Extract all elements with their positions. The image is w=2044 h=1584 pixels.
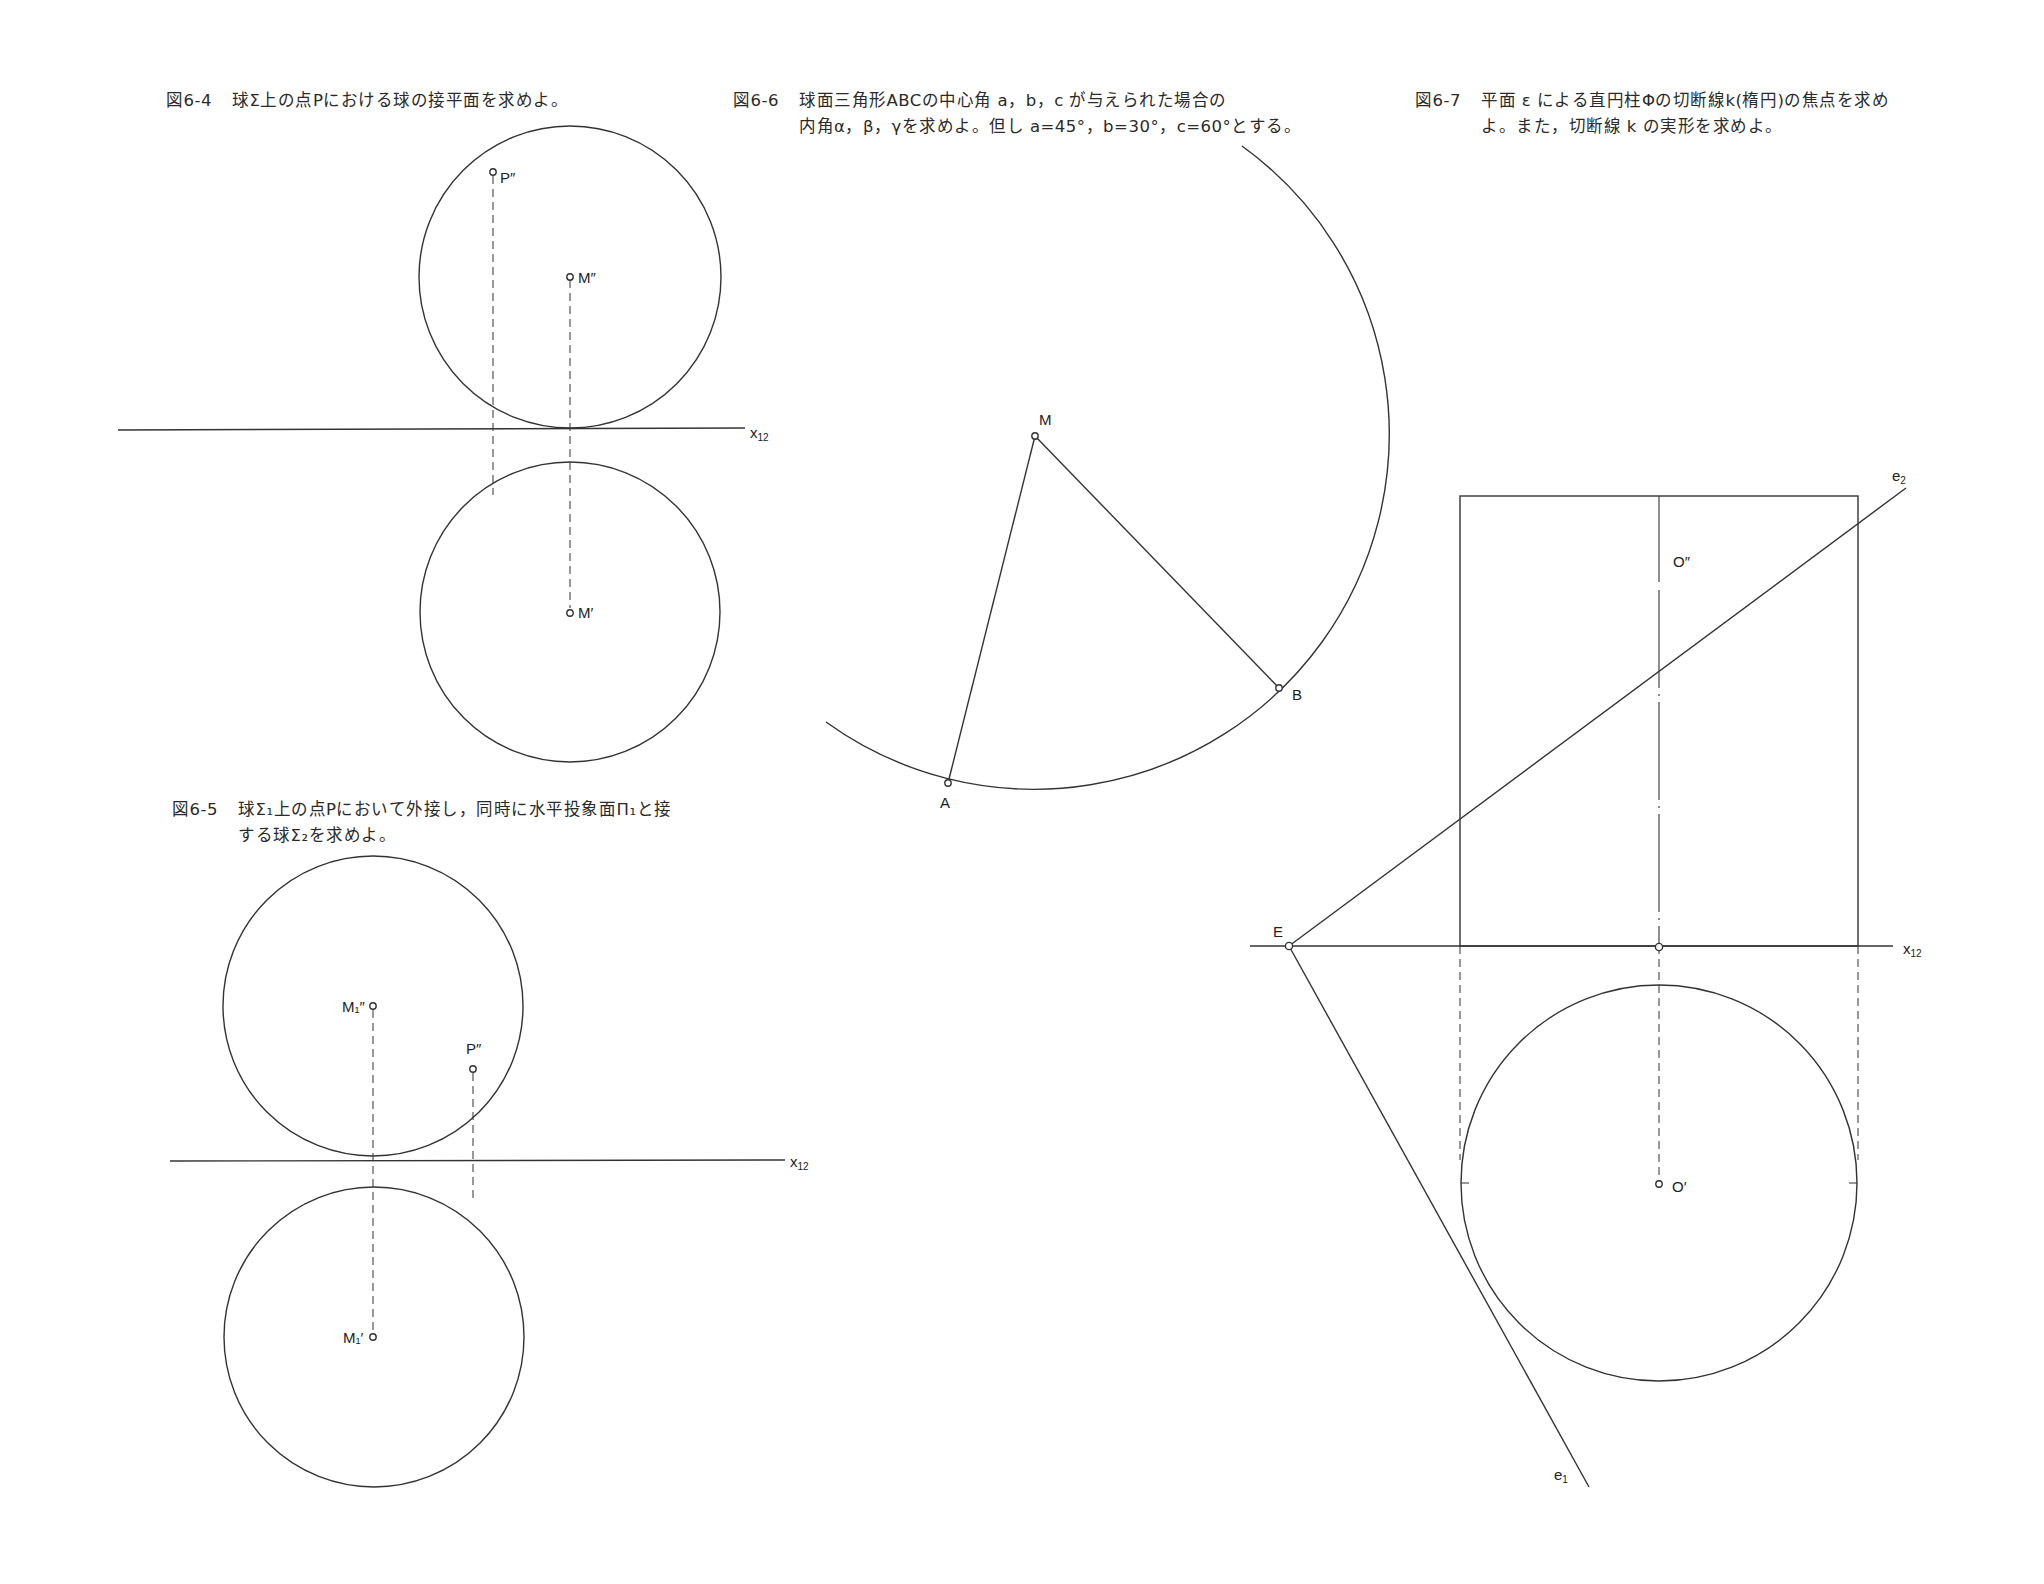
great-circle-arc <box>826 146 1389 789</box>
label-x12: x12 <box>750 424 769 443</box>
label-e: E <box>1273 923 1283 940</box>
point-m2-marker <box>567 274 573 280</box>
point-a-marker <box>945 780 951 786</box>
label-x12: x12 <box>1903 940 1922 959</box>
label-m11: M₁′ <box>343 1329 364 1346</box>
figure-6-4: P″ M″ M′ x12 <box>118 126 769 762</box>
point-e-marker <box>1285 942 1292 949</box>
figure-6-5: M₁″ P″ M₁′ x12 <box>170 856 809 1487</box>
label-m2: M″ <box>578 269 596 286</box>
edge-m-b <box>1035 436 1279 688</box>
point-o1-marker <box>1656 1181 1662 1187</box>
figure-6-7: O″ O′ E e2 e1 x12 <box>1250 467 1922 1487</box>
label-p2: P″ <box>466 1040 482 1057</box>
edge-m-a <box>948 436 1035 783</box>
point-m-marker <box>1032 433 1038 439</box>
point-m12-marker <box>370 1003 376 1009</box>
figure-6-6: M A B <box>826 146 1389 811</box>
x12-axis <box>170 1160 785 1161</box>
x12-axis <box>118 428 745 430</box>
label-p2: P″ <box>500 169 516 186</box>
label-x12: x12 <box>790 1153 809 1172</box>
point-p2-marker <box>470 1066 476 1072</box>
label-e1: e1 <box>1554 1466 1568 1485</box>
label-o1: O′ <box>1672 1178 1687 1195</box>
trace-e1 <box>1289 946 1589 1487</box>
label-a: A <box>940 794 950 811</box>
trace-e2 <box>1289 488 1906 946</box>
label-o2: O″ <box>1673 553 1691 570</box>
point-p2-marker <box>490 169 496 175</box>
label-m1: M′ <box>578 604 593 621</box>
label-e2: e2 <box>1892 467 1906 486</box>
label-b: B <box>1292 686 1302 703</box>
point-m1-marker <box>567 610 573 616</box>
point-axis-marker <box>1655 943 1662 950</box>
drawing-canvas: P″ M″ M′ x12 M₁″ P″ M₁′ x12 M A <box>0 0 2044 1584</box>
point-m11-marker <box>370 1334 376 1340</box>
label-m: M <box>1039 411 1052 428</box>
point-b-marker <box>1276 685 1282 691</box>
label-m12: M₁″ <box>342 998 366 1015</box>
